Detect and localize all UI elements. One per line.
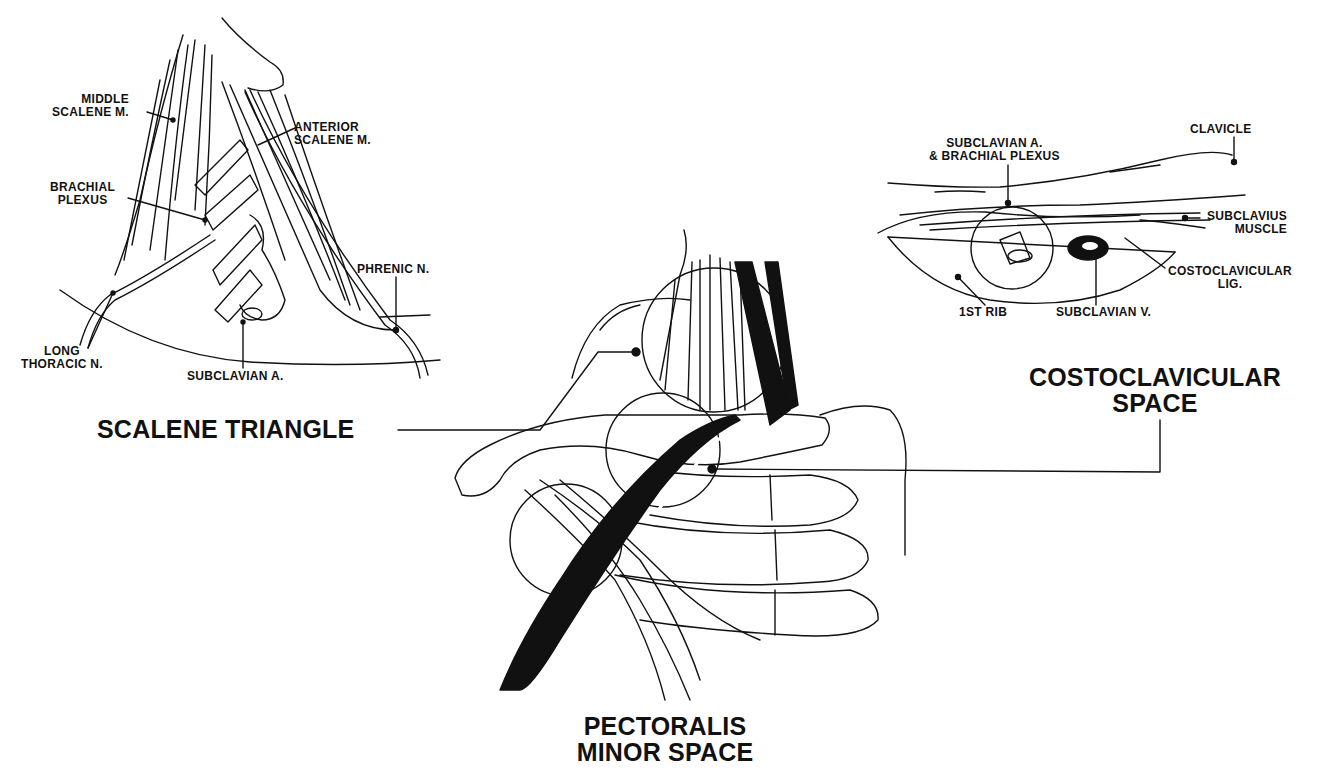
label-line: THORACIC N.: [21, 358, 103, 371]
label-line: & BRACHIAL PLEXUS: [929, 150, 1060, 163]
label-line: SCALENE M.: [52, 106, 129, 119]
label-subclavian-artery: SUBCLAVIAN A.: [187, 370, 284, 383]
label-phrenic-nerve: PHRENIC N.: [357, 263, 429, 276]
label-line: PLEXUS: [50, 194, 115, 207]
label-costoclavicular-space: COSTOCLAVICULAR SPACE: [1007, 364, 1303, 416]
label-subclavian-brachial-plexus: SUBCLAVIAN A. & BRACHIAL PLEXUS: [929, 137, 1060, 163]
label-pectoralis-minor-space: PECTORALIS MINOR SPACE: [555, 713, 775, 765]
label-brachial-plexus: BRACHIAL PLEXUS: [50, 181, 115, 207]
label-anterior-scalene: ANTERIOR SCALENE M.: [294, 121, 371, 147]
central-shoulder-drawing: [398, 230, 1160, 700]
label-line: SPACE: [1007, 390, 1303, 416]
label-long-thoracic-nerve: LONG THORACIC N.: [21, 345, 103, 371]
label-line: MUSCLE: [1207, 223, 1287, 236]
label-scalene-triangle: SCALENE TRIANGLE: [97, 416, 354, 442]
label-costoclavicular-ligament: COSTOCLAVICULAR LIG.: [1168, 265, 1292, 291]
label-subclavian-vein: SUBCLAVIAN V.: [1056, 306, 1151, 319]
label-line: COSTOCLAVICULAR: [1007, 364, 1303, 390]
label-first-rib: 1ST RIB: [959, 306, 1007, 319]
label-line: SCALENE M.: [294, 134, 371, 147]
label-subclavius-muscle: SUBCLAVIUS MUSCLE: [1207, 210, 1287, 236]
label-middle-scalene: MIDDLE SCALENE M.: [52, 93, 129, 119]
label-line: LIG.: [1168, 278, 1292, 291]
anatomy-diagram: MIDDLE SCALENE M. ANTERIOR SCALENE M. BR…: [0, 0, 1329, 778]
label-line: MINOR SPACE: [555, 739, 775, 765]
label-clavicle: CLAVICLE: [1190, 123, 1252, 136]
label-line: PECTORALIS: [555, 713, 775, 739]
scalene-inset-drawing: [60, 18, 440, 378]
